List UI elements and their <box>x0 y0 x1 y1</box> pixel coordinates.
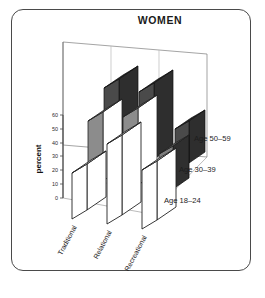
y-tick-20: 20 <box>52 167 58 173</box>
y-axis: 0 10 20 30 40 50 60 percent <box>34 112 63 201</box>
y-tick-0: 0 <box>55 195 58 201</box>
y-axis-label: percent <box>34 144 43 173</box>
y-tick-50: 50 <box>52 126 58 132</box>
series-label-age-18-24: Age 18–24 <box>164 196 201 205</box>
category-label-traditional: Traditional <box>56 224 78 256</box>
y-tick-10: 10 <box>52 181 58 187</box>
chart-plot-area: 0 10 20 30 40 50 60 percent <box>11 9 251 271</box>
y-tick-60: 60 <box>52 112 58 118</box>
category-label-recreational: Recreational <box>123 234 148 271</box>
bar-traditional-age-18-24[interactable] <box>72 151 106 219</box>
category-label-relational: Relational <box>92 229 113 260</box>
series-label-age-30-39: Age 30–39 <box>179 165 216 174</box>
y-tick-40: 40 <box>52 140 58 146</box>
bar-chart-3d: 0 10 20 30 40 50 60 percent <box>11 9 251 271</box>
y-axis-wall <box>21 42 63 198</box>
category-labels: Traditional Relational Recreational <box>56 224 148 271</box>
series-label-age-50-59: Age 50–59 <box>194 134 231 143</box>
y-tick-30: 30 <box>52 153 58 159</box>
